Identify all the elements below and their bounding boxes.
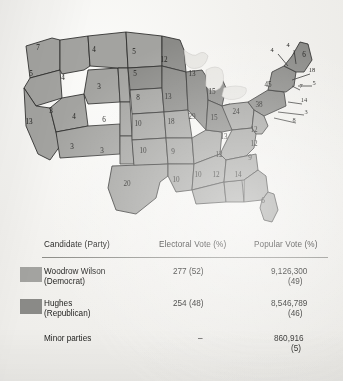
state-electoral-votes-in: 15 bbox=[210, 114, 218, 122]
legend-swatch-wilson bbox=[20, 267, 42, 282]
state-electoral-votes-md: 8 bbox=[292, 116, 295, 123]
popular-vote-value: 8,546,789 bbox=[271, 299, 307, 310]
state-electoral-votes-ia: 13 bbox=[164, 93, 172, 101]
state-electoral-votes-tx: 20 bbox=[123, 180, 131, 188]
state-electoral-votes-pa: 38 bbox=[255, 101, 263, 109]
state-electoral-votes-ky: 13 bbox=[220, 133, 228, 141]
state-electoral-votes-ar: 9 bbox=[171, 148, 175, 156]
state-electoral-votes-ms: 10 bbox=[194, 171, 202, 179]
state-electoral-votes-ri: 5 bbox=[312, 79, 315, 86]
state-electoral-votes-wa: 7 bbox=[36, 44, 40, 52]
state-electoral-votes-ct: 7 bbox=[299, 82, 303, 89]
electoral-vote-value: – bbox=[198, 334, 203, 345]
table-header-rule bbox=[42, 257, 328, 258]
state-electoral-votes-mn: 12 bbox=[160, 56, 168, 64]
electoral-vote-value: 254 (48) bbox=[173, 299, 204, 310]
state-electoral-votes-vt: 4 bbox=[270, 46, 274, 53]
state-electoral-votes-ne: 8 bbox=[136, 94, 140, 102]
popular-vote-value: 860,916 bbox=[274, 334, 304, 345]
state-electoral-votes-nm: 3 bbox=[100, 147, 104, 155]
state-electoral-votes-al: 12 bbox=[212, 171, 220, 179]
electoral-vote-value: 277 (52) bbox=[173, 267, 204, 278]
column-header-popular-vote: Popular Vote (%) bbox=[254, 240, 318, 249]
election-figure: .st{stroke:#2b2b29;stroke-width:.85;stro… bbox=[0, 0, 343, 381]
popular-vote-percent: (5) bbox=[291, 344, 301, 355]
state-electoral-votes-co: 6 bbox=[102, 116, 106, 124]
state-electoral-votes-tn: 12 bbox=[215, 151, 223, 159]
state-electoral-votes-me: 6 bbox=[302, 51, 306, 59]
state-electoral-votes-nc: 12 bbox=[250, 140, 258, 148]
state-electoral-votes-mt: 4 bbox=[92, 46, 96, 54]
state-electoral-votes-sc: 9 bbox=[248, 154, 252, 162]
legend-swatch-hughes bbox=[20, 299, 42, 314]
candidate-name: Hughes bbox=[44, 299, 72, 310]
state-electoral-votes-nj: 14 bbox=[301, 96, 308, 103]
candidate-name: Minor parties bbox=[44, 334, 91, 345]
state-electoral-votes-ks: 10 bbox=[134, 120, 142, 128]
state-electoral-votes-az: 3 bbox=[70, 143, 74, 151]
column-header-electoral-vote: Electoral Vote (%) bbox=[159, 240, 226, 249]
candidate-name: Woodrow Wilson bbox=[44, 267, 105, 278]
state-electoral-votes-mi: 15 bbox=[208, 88, 216, 96]
candidate-party: (Democrat) bbox=[44, 277, 85, 288]
state-electoral-votes-ca: 13 bbox=[25, 118, 33, 126]
popular-vote-percent: (46) bbox=[288, 309, 303, 320]
state-electoral-votes-la: 10 bbox=[172, 176, 180, 184]
popular-vote-value: 9,126,300 bbox=[271, 267, 307, 278]
state-electoral-votes-nh: 4 bbox=[286, 41, 290, 48]
state-electoral-votes-ny: 45 bbox=[264, 81, 272, 89]
state-electoral-votes-wy: 3 bbox=[97, 83, 101, 91]
state-electoral-votes-ga: 14 bbox=[234, 171, 242, 179]
state-electoral-votes-or: 5 bbox=[29, 70, 33, 78]
state-electoral-votes-nd: 5 bbox=[132, 48, 136, 56]
state-electoral-votes-mo: 18 bbox=[167, 118, 175, 126]
state-electoral-votes-sd: 5 bbox=[133, 70, 137, 78]
state-electoral-votes-fl: 6 bbox=[261, 197, 265, 205]
electoral-vote-map: .st{stroke:#2b2b29;stroke-width:.85;stro… bbox=[16, 14, 328, 226]
candidate-party: (Republican) bbox=[44, 309, 90, 320]
state-electoral-votes-de: 3 bbox=[304, 108, 307, 115]
state-electoral-votes-oh: 24 bbox=[232, 108, 240, 116]
election-results-table: Candidate (Party) Electoral Vote (%) Pop… bbox=[16, 236, 328, 368]
state-electoral-votes-il: 29 bbox=[188, 113, 196, 121]
column-header-candidate: Candidate (Party) bbox=[44, 240, 110, 249]
state-electoral-votes-id: 4 bbox=[61, 74, 65, 82]
state-electoral-votes-ma: 18 bbox=[309, 66, 315, 73]
state-electoral-votes-ut: 4 bbox=[72, 113, 76, 121]
state-electoral-votes-ok: 10 bbox=[139, 147, 147, 155]
state-electoral-votes-nv: 3 bbox=[49, 107, 53, 115]
state-electoral-votes-va: 12 bbox=[250, 126, 258, 134]
state-electoral-votes-wi: 13 bbox=[188, 70, 196, 78]
map-panel: .st{stroke:#2b2b29;stroke-width:.85;stro… bbox=[16, 14, 328, 226]
popular-vote-percent: (49) bbox=[288, 277, 303, 288]
